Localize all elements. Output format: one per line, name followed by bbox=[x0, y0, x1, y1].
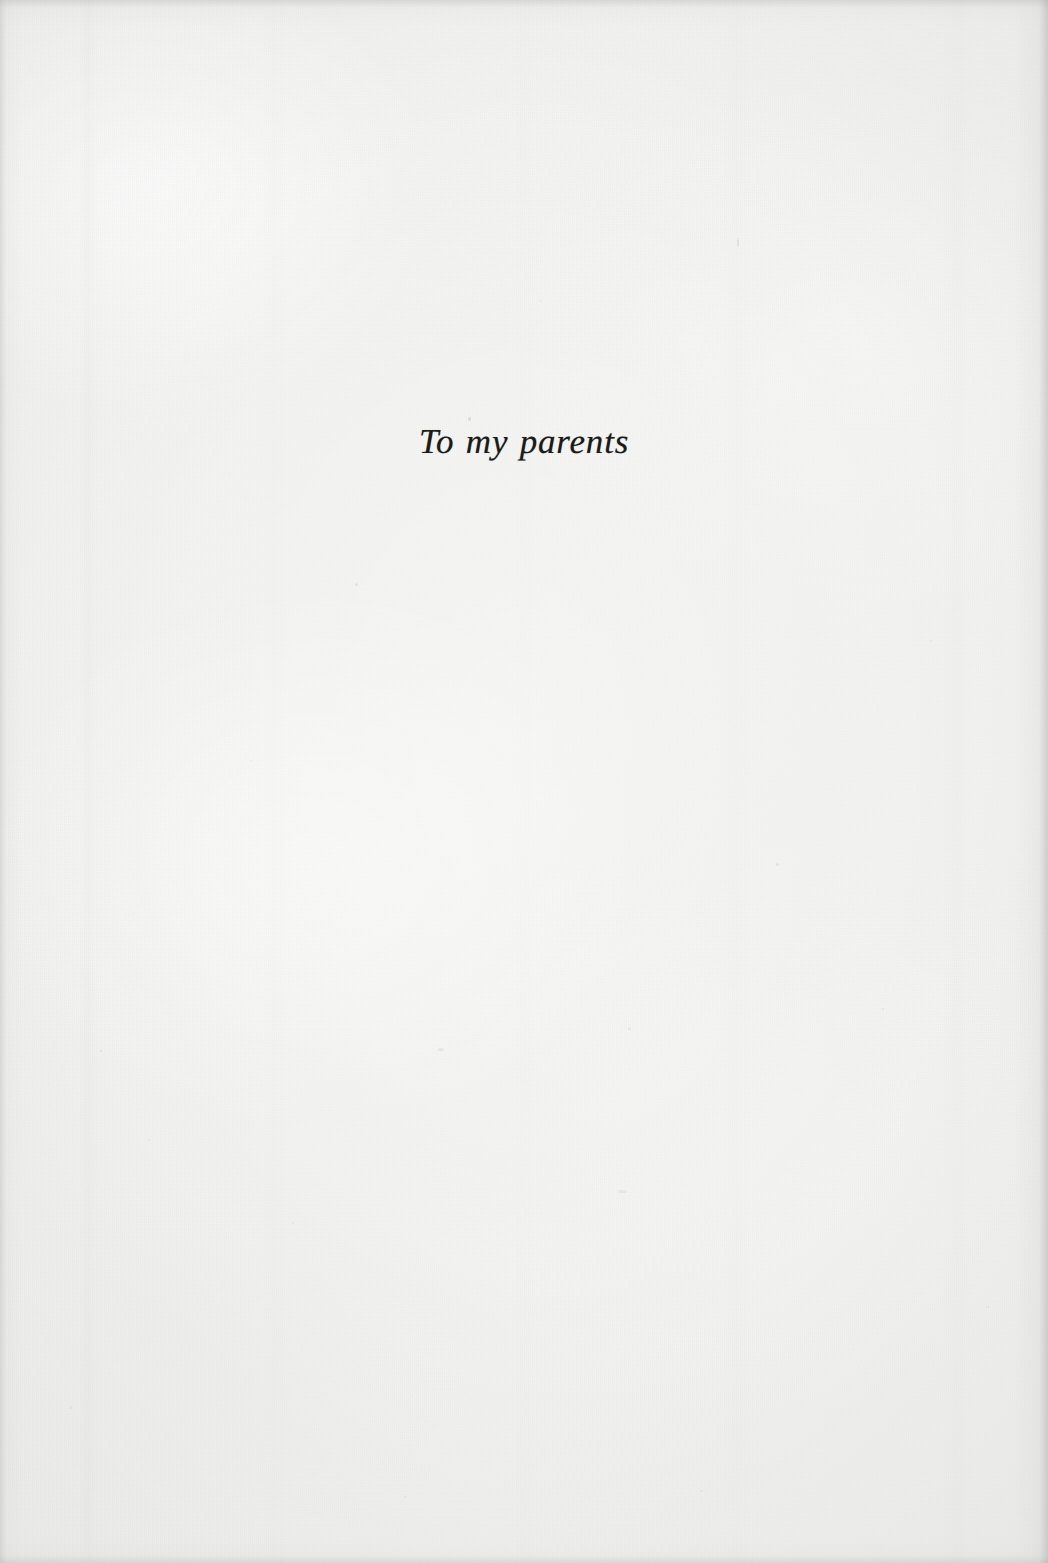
paper-speck bbox=[737, 238, 739, 247]
paper-speck bbox=[292, 1222, 294, 1224]
paper-speck bbox=[438, 1048, 444, 1051]
paper-speck bbox=[618, 1190, 627, 1193]
paper-speck bbox=[355, 583, 358, 586]
paper-speck bbox=[70, 1406, 72, 1409]
paper-speck bbox=[148, 1139, 150, 1141]
paper-speck bbox=[986, 1306, 989, 1308]
paper-speck bbox=[700, 1490, 703, 1492]
paper-speck bbox=[100, 1050, 102, 1052]
paper-speck bbox=[882, 1008, 884, 1010]
paper-speck bbox=[404, 1496, 406, 1498]
paper-speck bbox=[930, 640, 932, 642]
paper-vignette bbox=[0, 0, 1048, 1563]
dedication-text: To my parents bbox=[0, 420, 1048, 464]
paper-speck bbox=[250, 760, 252, 762]
paper-speck bbox=[628, 1028, 631, 1030]
dedication-page: To my parents bbox=[0, 0, 1048, 1563]
paper-speck bbox=[540, 300, 542, 302]
paper-speck bbox=[776, 863, 779, 866]
